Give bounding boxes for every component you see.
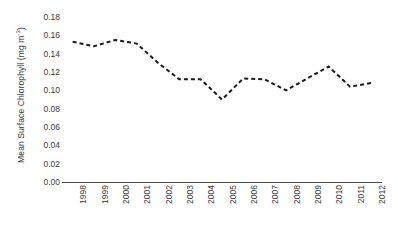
y-axis-tick-label: 0.10 <box>38 85 60 95</box>
y-axis-tick-label: 0.14 <box>38 49 60 59</box>
x-axis-tick-label: 1999 <box>100 185 111 225</box>
y-axis-tick-label: 0.12 <box>38 67 60 77</box>
y-axis-title-text: Mean Surface Chlorophyll (mg m <box>16 36 26 163</box>
x-axis-tick-label: 2005 <box>228 185 239 225</box>
x-axis-tick-label: 2008 <box>292 185 303 225</box>
y-axis-tick-label: 0.00 <box>38 177 60 187</box>
y-axis-tick-label: 0.06 <box>38 122 60 132</box>
y-axis-title-tail: ) <box>16 27 26 30</box>
y-axis-tick-label: 0.18 <box>38 12 60 22</box>
x-axis-tick-label: 2009 <box>313 185 324 225</box>
x-axis-tick-label: 2007 <box>270 185 281 225</box>
x-axis-tick-label: 2012 <box>377 185 388 225</box>
y-axis-tick-label: 0.02 <box>38 159 60 169</box>
x-axis-line <box>62 182 382 183</box>
data-series-line <box>73 40 372 100</box>
chlorophyll-line-chart <box>62 17 382 182</box>
x-axis-tick-label: 2006 <box>249 185 260 225</box>
chart-container: Mean Surface Chlorophyll (mg m-3) 0.180.… <box>0 0 398 229</box>
x-axis-tick-labels: 1998199920002001200220032004200520062007… <box>62 185 382 229</box>
x-axis-tick-label: 2010 <box>334 185 345 225</box>
y-axis-tick-label: 0.16 <box>38 30 60 40</box>
x-axis-tick-label: 1998 <box>78 185 89 225</box>
x-axis-tick-label: 2004 <box>206 185 217 225</box>
x-axis-tick-label: 2011 <box>356 185 367 225</box>
x-axis-tick-label: 2001 <box>142 185 153 225</box>
x-axis-tick-label: 2000 <box>121 185 132 225</box>
y-axis-title-superscript: -3 <box>15 30 21 36</box>
y-axis-tick-label: 0.04 <box>38 140 60 150</box>
x-axis-tick-label: 2003 <box>185 185 196 225</box>
y-axis-tick-labels: 0.180.160.140.120.100.080.060.040.020.00 <box>38 0 60 229</box>
plot-area <box>62 17 382 182</box>
y-axis-title: Mean Surface Chlorophyll (mg m-3) <box>14 0 28 190</box>
y-axis-tick-label: 0.08 <box>38 104 60 114</box>
x-axis-tick-label: 2002 <box>164 185 175 225</box>
